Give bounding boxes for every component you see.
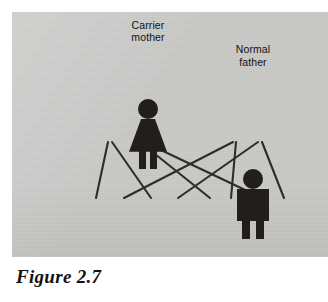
female-leg-left-shape xyxy=(139,151,146,169)
diagram-panel: Carrier mother Normal father Parent's se… xyxy=(12,12,328,257)
male-leg-right-shape xyxy=(256,220,264,239)
female-dress-shape xyxy=(129,119,167,152)
carrier-mother-caption: Carrier mother xyxy=(106,19,190,43)
female-head-shape xyxy=(138,99,158,119)
male-head-shape xyxy=(243,169,263,189)
male-torso-shape xyxy=(237,189,269,221)
normal-father-caption: Normal father xyxy=(211,43,295,67)
line-mother-xh-to-carrier-daughter xyxy=(96,142,108,198)
female-leg-right-shape xyxy=(150,151,157,169)
female-figure-icon xyxy=(125,99,171,169)
male-leg-left-shape xyxy=(242,220,250,239)
figure-caption: Figure 2.7 xyxy=(16,266,101,288)
male-figure-icon xyxy=(231,169,275,239)
figure-2-7: Carrier mother Normal father Parent's se… xyxy=(0,0,328,302)
